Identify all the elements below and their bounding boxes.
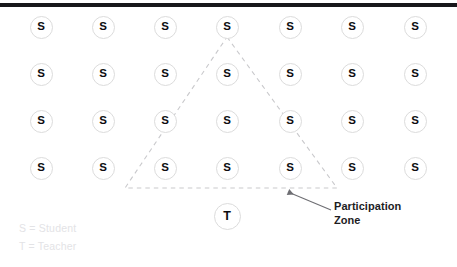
- student-node[interactable]: S: [279, 63, 302, 86]
- student-node-label: S: [223, 115, 231, 127]
- top-divider-rule: [0, 3, 457, 7]
- student-node[interactable]: S: [216, 16, 239, 39]
- student-node-label: S: [348, 115, 356, 127]
- student-node-label: S: [99, 115, 107, 127]
- student-node-label: S: [161, 21, 169, 33]
- student-node[interactable]: S: [154, 63, 177, 86]
- student-node[interactable]: S: [154, 157, 177, 180]
- student-node-label: S: [37, 68, 45, 80]
- student-node-label: S: [348, 162, 356, 174]
- student-node[interactable]: S: [30, 63, 53, 86]
- student-node-label: S: [223, 21, 231, 33]
- participation-zone-label: Participation Zone: [334, 199, 452, 227]
- student-node-label: S: [223, 68, 231, 80]
- student-node[interactable]: S: [30, 16, 53, 39]
- student-node[interactable]: S: [404, 157, 427, 180]
- student-node[interactable]: S: [341, 63, 364, 86]
- student-node[interactable]: S: [30, 110, 53, 133]
- student-node[interactable]: S: [279, 157, 302, 180]
- student-node[interactable]: S: [341, 110, 364, 133]
- legend: S = Student T = Teacher: [19, 219, 77, 256]
- student-node[interactable]: S: [92, 16, 115, 39]
- student-node-label: S: [223, 162, 231, 174]
- student-node-label: S: [161, 162, 169, 174]
- student-node[interactable]: S: [30, 157, 53, 180]
- teacher-node[interactable]: T: [214, 203, 241, 230]
- student-node-label: S: [99, 21, 107, 33]
- student-node[interactable]: S: [404, 110, 427, 133]
- student-node-label: S: [411, 21, 419, 33]
- participation-zone-leader-line: [288, 192, 331, 210]
- participation-zone-label-line-2: Zone: [334, 213, 452, 227]
- student-node[interactable]: S: [216, 63, 239, 86]
- student-node-label: S: [286, 162, 294, 174]
- student-node[interactable]: S: [279, 16, 302, 39]
- student-node[interactable]: S: [404, 63, 427, 86]
- student-node-label: S: [286, 115, 294, 127]
- student-node[interactable]: S: [404, 16, 427, 39]
- student-node-label: S: [286, 21, 294, 33]
- student-node-label: S: [411, 68, 419, 80]
- student-node[interactable]: S: [92, 157, 115, 180]
- student-node-label: S: [37, 21, 45, 33]
- student-node[interactable]: S: [92, 110, 115, 133]
- student-node-label: S: [37, 115, 45, 127]
- student-node[interactable]: S: [279, 110, 302, 133]
- student-node[interactable]: S: [154, 16, 177, 39]
- student-node[interactable]: S: [341, 16, 364, 39]
- legend-item-teacher: T = Teacher: [19, 237, 77, 255]
- student-node-label: S: [161, 68, 169, 80]
- student-node-label: S: [37, 162, 45, 174]
- student-node-label: S: [286, 68, 294, 80]
- student-node-label: S: [411, 115, 419, 127]
- student-node[interactable]: S: [216, 110, 239, 133]
- student-node[interactable]: S: [92, 63, 115, 86]
- student-node[interactable]: S: [216, 157, 239, 180]
- student-node[interactable]: S: [341, 157, 364, 180]
- student-node[interactable]: S: [154, 110, 177, 133]
- teacher-node-label: T: [223, 209, 231, 222]
- student-node-label: S: [161, 115, 169, 127]
- student-node-label: S: [348, 68, 356, 80]
- student-node-label: S: [348, 21, 356, 33]
- student-node-label: S: [99, 162, 107, 174]
- classroom-seating-diagram: SSSSSSSSSSSSSSSSSSSSSSSSSSSS T Participa…: [0, 0, 457, 267]
- student-node-label: S: [99, 68, 107, 80]
- participation-zone-label-line-1: Participation: [334, 199, 452, 213]
- student-node-label: S: [411, 162, 419, 174]
- legend-item-student: S = Student: [19, 219, 77, 237]
